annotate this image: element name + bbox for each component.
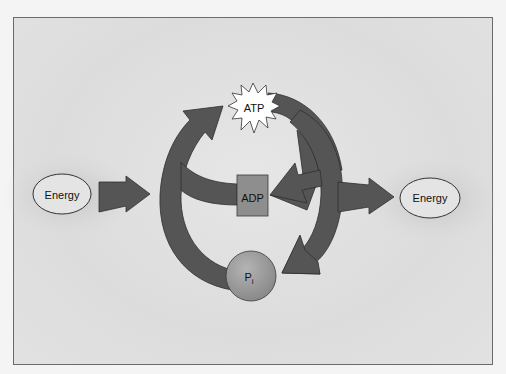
diagram-stage: Energy ADP ATP P [0,0,506,374]
adp-node: ADP [237,175,268,216]
adp-to-cycle-branch [181,162,237,205]
pi-label: P [244,271,251,283]
atp-node: ATP [228,83,280,133]
adp-label: ADP [241,192,264,204]
energy-output-node: Energy [400,178,460,218]
pi-node: Pi [226,251,276,301]
pi-subscript: i [252,277,254,286]
energy-input-node: Energy [33,174,91,214]
atp-cycle-diagram: Energy ADP ATP P [0,0,506,374]
energy-output-label: Energy [413,192,448,204]
energy-input-label: Energy [45,189,80,201]
atp-label: ATP [244,102,265,114]
